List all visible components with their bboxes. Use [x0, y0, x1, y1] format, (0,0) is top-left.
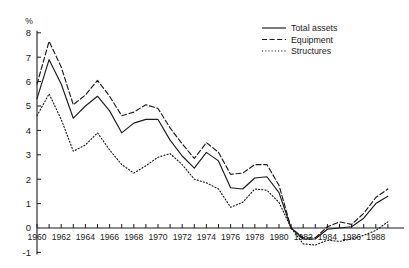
x-axis-tick-label: 1968 [124, 232, 143, 242]
y-axis-unit-label: % [25, 16, 33, 26]
x-axis-tick-label: 1962 [52, 232, 71, 242]
x-axis-tick-label: 1966 [100, 232, 119, 242]
chart-canvas: -1012345678%1960196219641966196819701972… [0, 0, 409, 268]
y-axis-tick-label: 8 [26, 27, 31, 38]
y-axis-tick-label: 5 [26, 100, 31, 111]
legend-label: Structures [291, 46, 332, 56]
y-axis-tick-label: -1 [23, 247, 31, 258]
y-axis-tick-label: 6 [26, 76, 31, 87]
x-axis-tick-label: 1980 [269, 232, 288, 242]
series-line-total-assets [37, 60, 388, 239]
x-axis-tick-label: 1978 [245, 232, 264, 242]
line-chart: -1012345678%1960196219641966196819701972… [0, 0, 409, 268]
y-axis-tick-label: 2 [26, 174, 31, 185]
y-axis-tick-label: 7 [26, 52, 31, 63]
x-axis-tick-label: 1970 [148, 232, 167, 242]
x-axis-tick-label: 1964 [76, 232, 95, 242]
y-axis-tick-label: 4 [26, 125, 31, 136]
series-line-equipment [37, 41, 388, 237]
x-axis-tick-label: 1974 [197, 232, 216, 242]
y-axis-tick-label: 3 [26, 149, 31, 160]
legend-label: Total assets [291, 23, 338, 33]
x-axis-tick-label: 1960 [27, 232, 46, 242]
y-axis-tick-label: 1 [26, 198, 31, 209]
x-axis-tick-label: 1972 [173, 232, 192, 242]
x-axis-tick-label: 1976 [221, 232, 240, 242]
legend: Total assetsEquipmentStructures [262, 23, 338, 56]
series-line-structures [37, 94, 388, 245]
legend-label: Equipment [291, 35, 334, 45]
